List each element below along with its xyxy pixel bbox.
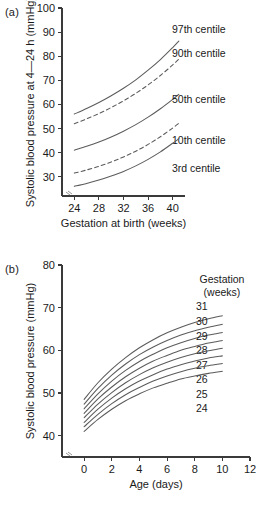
x-tick-label-12: 12 <box>244 463 256 475</box>
y-tick-label-80: 80 <box>43 259 55 271</box>
y-axis-title: Systolic blood pressure (mmHg) <box>24 283 36 440</box>
series-label-10th-centile: 10th centile <box>172 134 226 146</box>
chart-panel-b: (b) 4050607080024681012Systolic blood pr… <box>0 257 270 514</box>
curve-50th-centile <box>74 94 179 150</box>
panel-b-label: (b) <box>5 263 19 275</box>
y-tick-label-40: 40 <box>43 147 55 159</box>
series-label-24: 24 <box>196 402 208 414</box>
chart-panel-a: (a) 304050607080901002428323640Systolic … <box>0 0 270 257</box>
series-label-90th-centile: 90th centile <box>172 47 226 59</box>
x-axis-title: Age (days) <box>129 478 182 490</box>
x-tick-label-40: 40 <box>167 202 179 214</box>
y-tick-label-70: 70 <box>43 302 55 314</box>
series-label-29: 29 <box>196 330 208 342</box>
series-label-97th-centile: 97th centile <box>172 23 226 35</box>
x-axis-title: Gestation at birth (weeks) <box>61 217 186 229</box>
systolic-bp-age-chart: 4050607080024681012Systolic blood pressu… <box>0 257 270 514</box>
x-tick-label-4: 4 <box>136 463 142 475</box>
x-tick-label-6: 6 <box>164 463 170 475</box>
axis-break-mark <box>66 452 72 456</box>
series-label-30: 30 <box>196 315 208 327</box>
y-axis-title: Systolic blood pressure at 4—24 h (mmHg) <box>24 0 36 207</box>
x-tick-label-10: 10 <box>216 463 228 475</box>
series-label-3rd-centile: 3rd centile <box>172 162 221 174</box>
legend-title-line1: Gestation <box>200 273 245 285</box>
y-tick-label-50: 50 <box>43 123 55 135</box>
x-tick-label-8: 8 <box>192 463 198 475</box>
y-tick-label-70: 70 <box>43 74 55 86</box>
figure-container: (a) 304050607080901002428323640Systolic … <box>0 0 270 514</box>
y-tick-label-40: 40 <box>43 430 55 442</box>
curve-97th-centile <box>74 41 179 114</box>
legend-title-line2: (weeks) <box>204 286 241 298</box>
y-tick-label-60: 60 <box>43 344 55 356</box>
curve-3rd-centile <box>74 139 179 187</box>
x-tick-label-36: 36 <box>142 202 154 214</box>
y-tick-label-50: 50 <box>43 387 55 399</box>
series-label-28: 28 <box>196 344 208 356</box>
y-tick-label-100: 100 <box>37 2 55 14</box>
y-tick-label-60: 60 <box>43 98 55 110</box>
x-tick-label-32: 32 <box>117 202 129 214</box>
x-tick-label-28: 28 <box>93 202 105 214</box>
curve-90th-centile <box>74 59 179 124</box>
series-label-50th-centile: 50th centile <box>172 93 226 105</box>
x-tick-label-0: 0 <box>81 463 87 475</box>
series-label-25: 25 <box>196 388 208 400</box>
y-tick-label-30: 30 <box>43 171 55 183</box>
x-tick-label-24: 24 <box>68 202 80 214</box>
systolic-bp-gestation-chart: 304050607080901002428323640Systolic bloo… <box>0 0 270 257</box>
panel-a-label: (a) <box>5 6 19 18</box>
curve-10th-centile <box>74 123 179 173</box>
series-label-31: 31 <box>196 300 208 312</box>
axis-break-mark <box>66 191 72 195</box>
y-tick-label-90: 90 <box>43 26 55 38</box>
x-tick-label-2: 2 <box>109 463 115 475</box>
y-tick-label-80: 80 <box>43 50 55 62</box>
